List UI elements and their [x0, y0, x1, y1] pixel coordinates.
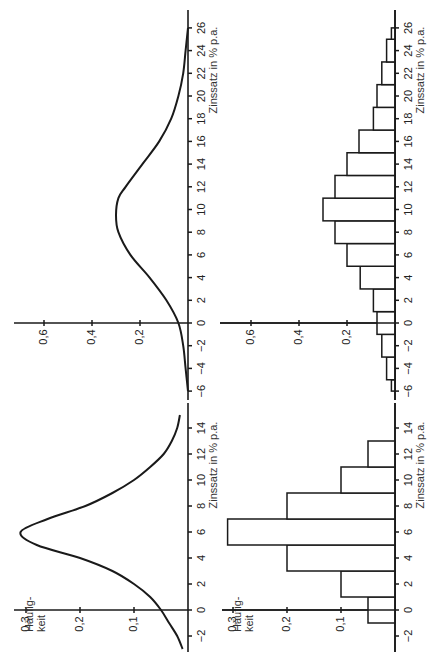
histogram-bar — [373, 289, 395, 312]
histogram-bar — [323, 198, 395, 221]
x-tick-label: 10 — [402, 203, 414, 215]
y-tick-label: 0,6 — [37, 329, 49, 344]
x-tick-label: 0 — [195, 320, 207, 326]
x-tick-label: 6 — [402, 529, 414, 535]
x-tick-label: 4 — [402, 555, 414, 561]
histogram-bar — [382, 62, 395, 85]
histogram-bar — [360, 266, 395, 289]
x-tick-label: 22 — [195, 67, 207, 79]
y-tick-label: 0,1 — [127, 616, 139, 631]
y-tick-label: 0,4 — [85, 329, 97, 344]
x-tick-label: 8 — [195, 503, 207, 509]
chart-bottom-right: −2024681012140,10,20,3Zinssatz in % p.a.… — [222, 403, 426, 652]
histogram-bar — [377, 85, 395, 108]
y-tick-label: 0,2 — [280, 616, 292, 631]
y-axis-title: keit — [243, 615, 255, 632]
chart-top-left: −6−4−2024681012141618202224260,20,40,6Zi… — [14, 10, 219, 400]
x-tick-label: 26 — [195, 22, 207, 34]
histogram-bar — [347, 244, 395, 267]
x-tick-label: 20 — [195, 90, 207, 102]
x-axis-title: Zinssatz in % p.a. — [207, 422, 219, 509]
density-curve — [20, 415, 182, 649]
y-tick-label: 0,1 — [334, 616, 346, 631]
x-tick-label: −6 — [402, 385, 414, 398]
x-tick-label: 0 — [195, 607, 207, 613]
x-tick-label: −4 — [195, 362, 207, 375]
x-tick-label: 4 — [195, 555, 207, 561]
x-tick-label: 12 — [402, 448, 414, 460]
y-tick-label: 0,4 — [292, 329, 304, 344]
x-tick-label: 14 — [195, 158, 207, 170]
x-tick-label: 8 — [195, 229, 207, 235]
x-tick-label: 16 — [402, 135, 414, 147]
y-tick-label: 0,2 — [133, 329, 145, 344]
histogram-bar — [341, 467, 395, 493]
x-tick-label: 10 — [195, 474, 207, 486]
x-tick-label: −2 — [402, 630, 414, 643]
y-tick-label: 0,6 — [244, 329, 256, 344]
y-axis-title: Häufig- — [23, 596, 35, 632]
x-tick-label: 12 — [195, 448, 207, 460]
histogram-bar — [287, 545, 395, 571]
x-tick-label: 4 — [402, 275, 414, 281]
x-tick-label: 6 — [402, 252, 414, 258]
histogram-bar — [228, 519, 395, 545]
x-tick-label: 20 — [402, 90, 414, 102]
x-axis-title: Zinssatz in % p.a. — [414, 27, 426, 114]
x-tick-label: −2 — [402, 339, 414, 352]
x-tick-label: 6 — [195, 529, 207, 535]
x-axis-title: Zinssatz in % p.a. — [414, 422, 426, 509]
histogram-bar — [347, 153, 395, 176]
y-tick-label: 0,2 — [340, 329, 352, 344]
x-tick-label: 0 — [402, 320, 414, 326]
histogram-bar — [341, 571, 395, 597]
chart-canvas: −6−4−2024681012141618202224260,20,40,6Zi… — [0, 0, 427, 665]
x-tick-label: −6 — [195, 385, 207, 398]
x-axis-title: Zinssatz in % p.a. — [207, 27, 219, 114]
x-tick-label: 12 — [195, 181, 207, 193]
x-tick-label: 14 — [402, 422, 414, 434]
x-tick-label: 2 — [195, 297, 207, 303]
histogram-bar — [368, 441, 395, 467]
x-tick-label: 6 — [195, 252, 207, 258]
histogram-bar — [287, 493, 395, 519]
y-axis-title: Häufig- — [231, 596, 243, 632]
x-tick-label: 22 — [402, 67, 414, 79]
x-tick-label: 8 — [402, 229, 414, 235]
x-tick-label: −2 — [195, 339, 207, 352]
histogram-bar — [359, 130, 395, 153]
histogram-bar — [335, 221, 395, 244]
x-tick-label: −4 — [402, 362, 414, 375]
x-tick-label: 2 — [402, 297, 414, 303]
x-tick-label: 10 — [195, 203, 207, 215]
x-tick-label: 2 — [195, 581, 207, 587]
x-tick-label: 18 — [195, 113, 207, 125]
histogram-bar — [335, 175, 395, 198]
y-axis-title: keit — [35, 615, 47, 632]
x-tick-label: 14 — [195, 422, 207, 434]
histogram-bar — [373, 107, 395, 130]
density-curve — [116, 28, 188, 391]
x-tick-label: 24 — [402, 44, 414, 56]
x-tick-label: 26 — [402, 22, 414, 34]
histogram-bar — [387, 357, 395, 380]
x-tick-label: −2 — [195, 630, 207, 643]
x-tick-label: 0 — [402, 607, 414, 613]
chart-bottom-left: −2024681012140,10,20,3Zinssatz in % p.a.… — [14, 403, 219, 652]
x-tick-label: 2 — [402, 581, 414, 587]
x-tick-label: 14 — [402, 158, 414, 170]
x-tick-label: 12 — [402, 181, 414, 193]
histogram-bar — [387, 39, 395, 62]
y-tick-label: 0,2 — [73, 616, 85, 631]
chart-top-right: −6−4−2024681012141618202224260,20,40,6Zi… — [220, 10, 426, 400]
x-tick-label: 4 — [195, 275, 207, 281]
histogram-bar — [382, 334, 395, 357]
x-tick-label: 10 — [402, 474, 414, 486]
x-tick-label: 16 — [195, 135, 207, 147]
x-tick-label: 24 — [195, 44, 207, 56]
x-tick-label: 8 — [402, 503, 414, 509]
x-tick-label: 18 — [402, 113, 414, 125]
